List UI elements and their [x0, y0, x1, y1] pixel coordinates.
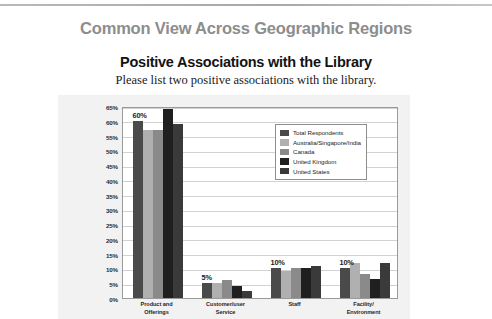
slide-title: Common View Across Geographic Regions [0, 19, 492, 38]
bar[interactable] [202, 283, 212, 298]
bar[interactable] [311, 266, 321, 298]
legend-item[interactable]: Australia/Singapore/India [280, 138, 361, 148]
bar[interactable] [360, 274, 370, 298]
y-axis-tick-label: 25% [92, 222, 118, 229]
bar[interactable] [380, 263, 390, 298]
y-axis-tick-label: 45% [92, 163, 118, 170]
bar[interactable] [153, 130, 163, 298]
legend-item-label: Australia/Singapore/India [293, 139, 361, 146]
legend-item-label: United Kingdom [293, 158, 336, 165]
bar[interactable] [163, 109, 173, 298]
legend-item[interactable]: Total Respondents [280, 128, 361, 138]
y-axis-tick-label: 5% [92, 281, 118, 288]
bar[interactable] [340, 268, 350, 298]
y-axis-tick-label: 0% [92, 296, 118, 303]
chart-title: Positive Associations with the Library [0, 54, 492, 70]
chart-subtitle: Please list two positive associations wi… [0, 73, 492, 88]
legend-swatch-icon [280, 158, 289, 165]
legend-item-label: United States [293, 168, 330, 175]
bar-value-label: 5% [202, 273, 212, 282]
bar-group: 5% [192, 108, 261, 298]
y-axis-tick-label: 50% [92, 148, 118, 155]
bar[interactable] [222, 280, 232, 298]
x-axis-category-label: Product andOfferings [122, 301, 191, 316]
bar[interactable] [271, 268, 281, 298]
bar[interactable] [133, 121, 143, 298]
x-axis-category-label: Customer/userService [191, 301, 260, 316]
bar-value-label: 60% [133, 111, 147, 120]
y-axis-tick-label: 65% [92, 104, 118, 111]
plot-area: 60%5%10%10% Total RespondentsAustralia/S… [122, 107, 398, 299]
y-axis-tick-label: 15% [92, 251, 118, 258]
bar-value-label: 10% [340, 258, 354, 267]
y-axis-tick-label: 20% [92, 236, 118, 243]
chart-panel: 0%5%10%15%20%25%30%35%40%45%50%55%60%65%… [58, 95, 410, 319]
legend-swatch-icon [280, 149, 289, 156]
y-axis-tick-label: 40% [92, 177, 118, 184]
legend-swatch-icon [280, 168, 289, 175]
bar-value-label: 10% [271, 258, 285, 267]
bar-set [123, 108, 192, 298]
bar[interactable] [281, 271, 291, 298]
legend-item[interactable]: United Kingdom [280, 157, 361, 167]
bar-set [192, 108, 261, 298]
y-axis-tick-label: 55% [92, 133, 118, 140]
legend-item-label: Total Respondents [293, 129, 343, 136]
legend-item[interactable]: Canada [280, 147, 361, 157]
bar[interactable] [173, 124, 183, 298]
legend-item-label: Canada [293, 148, 314, 155]
bar[interactable] [232, 286, 242, 298]
x-axis-category-label: Staff [260, 301, 329, 309]
legend-item[interactable]: United States [280, 166, 361, 176]
bar[interactable] [143, 130, 153, 298]
bar-group: 60% [123, 108, 192, 298]
y-axis-tick-label: 10% [92, 266, 118, 273]
bar[interactable] [212, 283, 222, 298]
x-axis-category-label: Facility/Environment [329, 301, 398, 316]
y-axis-tick-label: 60% [92, 118, 118, 125]
y-axis-tick-label: 30% [92, 207, 118, 214]
chart-legend: Total RespondentsAustralia/Singapore/Ind… [275, 124, 367, 180]
y-axis-tick-labels: 0%5%10%15%20%25%30%35%40%45%50%55%60%65% [88, 107, 118, 299]
bar[interactable] [242, 291, 252, 298]
bar[interactable] [370, 279, 380, 298]
bar[interactable] [291, 268, 301, 298]
legend-swatch-icon [280, 130, 289, 137]
y-axis-tick-label: 35% [92, 192, 118, 199]
top-divider-rule [0, 4, 492, 6]
bar[interactable] [301, 268, 311, 298]
bar[interactable] [350, 263, 360, 298]
legend-swatch-icon [280, 139, 289, 146]
